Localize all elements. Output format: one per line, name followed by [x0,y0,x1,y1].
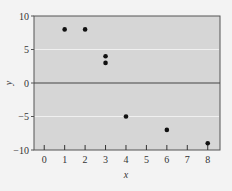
data-point [83,27,88,32]
x-tick-label: 3 [103,154,108,165]
x-tick-label: 1 [62,154,67,165]
data-point [103,54,108,59]
scatter-chart: 1050−5−10 012345678 x y [0,0,232,191]
x-tick-label: 4 [123,154,128,165]
data-point [205,141,210,146]
data-point [62,27,67,32]
x-tick-label: 7 [185,154,190,165]
data-point [124,114,129,119]
x-tick-label: 8 [205,154,210,165]
y-axis-label: y [3,80,14,86]
x-tick-label: 0 [42,154,47,165]
y-tick-label: 5 [24,44,29,55]
x-tick-label: 5 [144,154,149,165]
y-tick-label: −5 [18,111,29,122]
y-tick-label: 10 [19,11,29,22]
y-axis-ticks: 1050−5−10 [13,11,34,156]
data-point [103,61,108,66]
y-tick-label: 0 [24,78,29,89]
data-point [165,128,170,133]
y-tick-label: −10 [13,145,29,156]
x-tick-label: 2 [83,154,88,165]
x-tick-label: 6 [164,154,169,165]
x-axis-label: x [123,169,129,180]
